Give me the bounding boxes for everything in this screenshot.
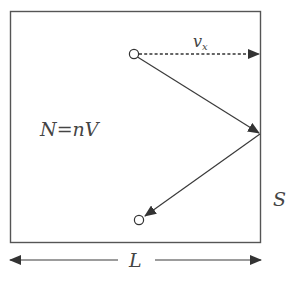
collision-diagram: vx N=nV S L — [0, 0, 295, 290]
velocity-subscript: x — [202, 41, 208, 52]
particle-count-equation: N=nV — [39, 118, 101, 140]
count-equals: = — [57, 118, 73, 140]
length-label: L — [128, 249, 142, 271]
incoming-path — [138, 57, 260, 133]
velocity-symbol: v — [193, 32, 202, 51]
reflected-path — [145, 134, 260, 216]
velocity-label: vx — [193, 32, 208, 52]
start-particle — [129, 49, 138, 58]
count-rhs: nV — [73, 118, 101, 140]
end-particle — [134, 215, 143, 224]
wall-area-label: S — [273, 188, 286, 210]
count-lhs: N — [39, 118, 58, 140]
